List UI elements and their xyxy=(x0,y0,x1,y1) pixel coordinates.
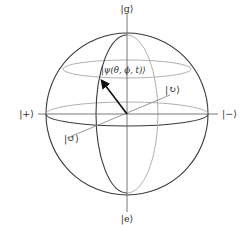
diagonal-axis xyxy=(67,95,170,138)
bloch-sphere-diagram: |g⟩ |e⟩ |+⟩ |−⟩ |↻⟩ |↺⟩ |ψ(θ, ϕ, t)⟩ xyxy=(0,0,252,225)
label-top: |g⟩ xyxy=(121,3,134,15)
label-state-vector: |ψ(θ, ϕ, t)⟩ xyxy=(101,65,146,76)
label-front-diagonal: |↺⟩ xyxy=(64,133,79,145)
label-right: |−⟩ xyxy=(222,108,237,120)
state-vector-arrow xyxy=(102,81,127,114)
label-bottom: |e⟩ xyxy=(121,213,134,225)
label-back-diagonal: |↻⟩ xyxy=(165,84,180,96)
label-left: |+⟩ xyxy=(19,108,34,120)
